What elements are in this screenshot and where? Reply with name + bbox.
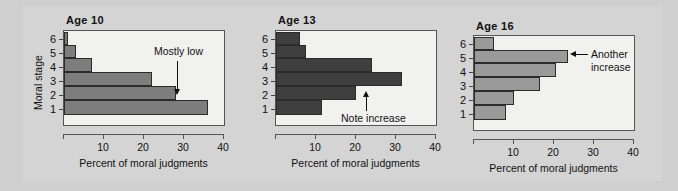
bar-stage-6 bbox=[474, 37, 494, 50]
y-tick-label-3: 3 bbox=[42, 75, 56, 87]
bar-stage-4 bbox=[276, 58, 372, 72]
x-tick-mark-20 bbox=[143, 135, 144, 139]
bar-stage-5 bbox=[276, 45, 306, 58]
x-tick-mark-10 bbox=[103, 135, 104, 139]
bar-stage-6 bbox=[64, 32, 68, 45]
y-tick-label-1: 1 bbox=[452, 108, 466, 120]
y-tick-label-2: 2 bbox=[254, 89, 268, 101]
y-tick-label-3: 3 bbox=[452, 80, 466, 92]
x-tick-mark-0 bbox=[473, 140, 474, 144]
y-tick-label-2: 2 bbox=[42, 89, 56, 101]
bar-stage-4 bbox=[64, 58, 92, 72]
x-tick-mark-20 bbox=[355, 135, 356, 139]
x-tick-mark-40 bbox=[435, 135, 436, 139]
chart-panel-age-13: Age 13 6 5 4 3 2 1 10 20 30 40 Percent bbox=[234, 6, 446, 181]
chart-title-age-13: Age 13 bbox=[278, 14, 316, 26]
chart-panel-age-16: Age 16 6 5 4 3 2 1 10 20 30 40 Percent bbox=[446, 6, 662, 181]
y-tick-label-6: 6 bbox=[452, 38, 466, 50]
y-tick-label-3: 3 bbox=[254, 75, 268, 87]
annotation-mostly-low: Mostly low bbox=[154, 45, 203, 57]
x-tick-label-30: 30 bbox=[582, 146, 604, 158]
bar-stage-2 bbox=[276, 86, 356, 100]
y-tick-label-6: 6 bbox=[42, 33, 56, 45]
x-tick-label-10: 10 bbox=[92, 141, 114, 153]
chart-panel-age-10: Age 10 Moral stage 6 5 4 3 2 1 bbox=[22, 6, 234, 181]
x-tick-label-10: 10 bbox=[502, 146, 524, 158]
bar-stage-2 bbox=[64, 86, 176, 100]
x-tick-mark-40 bbox=[223, 135, 224, 139]
x-tick-mark-30 bbox=[183, 135, 184, 139]
x-tick-label-20: 20 bbox=[542, 146, 564, 158]
x-tick-mark-10 bbox=[315, 135, 316, 139]
chart-title-age-16: Age 16 bbox=[476, 20, 514, 32]
bar-stage-4 bbox=[474, 63, 556, 77]
bar-stage-5 bbox=[64, 45, 76, 58]
y-tick-label-6: 6 bbox=[254, 33, 268, 45]
bar-stage-5 bbox=[474, 50, 568, 63]
x-tick-label-40: 40 bbox=[622, 146, 644, 158]
chart-title-age-10: Age 10 bbox=[66, 14, 104, 26]
x-tick-label-30: 30 bbox=[384, 141, 406, 153]
x-tick-label-20: 20 bbox=[344, 141, 366, 153]
x-tick-label-20: 20 bbox=[132, 141, 154, 153]
y-tick-label-4: 4 bbox=[452, 66, 466, 78]
y-tick-label-4: 4 bbox=[254, 61, 268, 73]
x-tick-mark-10 bbox=[513, 140, 514, 144]
x-tick-mark-30 bbox=[593, 140, 594, 144]
x-tick-label-30: 30 bbox=[172, 141, 194, 153]
x-tick-mark-20 bbox=[553, 140, 554, 144]
annotation-note-increase: Note increase bbox=[341, 112, 406, 124]
bar-stage-6 bbox=[276, 32, 300, 45]
y-tick-label-5: 5 bbox=[452, 52, 466, 64]
x-axis-title-age-16: Percent of moral judgments bbox=[473, 162, 634, 174]
y-tick-label-5: 5 bbox=[42, 47, 56, 59]
bar-stage-2 bbox=[474, 91, 514, 105]
x-tick-label-10: 10 bbox=[304, 141, 326, 153]
x-tick-mark-30 bbox=[395, 135, 396, 139]
bar-stage-3 bbox=[64, 72, 152, 86]
annotation-another: Another bbox=[591, 48, 628, 60]
x-axis-title-age-10: Percent of moral judgments bbox=[63, 157, 224, 169]
y-tick-label-2: 2 bbox=[452, 94, 466, 106]
bar-stage-1 bbox=[64, 100, 208, 115]
bar-stage-3 bbox=[474, 77, 540, 91]
y-tick-label-4: 4 bbox=[42, 61, 56, 73]
annotation-increase: increase bbox=[591, 61, 631, 73]
x-tick-mark-40 bbox=[633, 140, 634, 144]
figure-panel-group: Age 10 Moral stage 6 5 4 3 2 1 bbox=[22, 6, 662, 181]
y-tick-label-5: 5 bbox=[254, 47, 268, 59]
bar-stage-1 bbox=[474, 105, 506, 120]
bar-stage-1 bbox=[276, 100, 322, 115]
x-tick-label-40: 40 bbox=[212, 141, 234, 153]
bar-stage-3 bbox=[276, 72, 402, 86]
x-tick-label-40: 40 bbox=[424, 141, 446, 153]
x-tick-mark-0 bbox=[275, 135, 276, 139]
x-tick-mark-0 bbox=[63, 135, 64, 139]
y-tick-label-1: 1 bbox=[254, 103, 268, 115]
y-tick-label-1: 1 bbox=[42, 103, 56, 115]
x-axis-title-age-13: Percent of moral judgments bbox=[275, 157, 436, 169]
